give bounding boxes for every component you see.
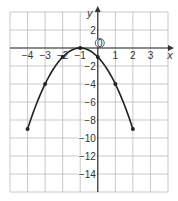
- y-tick-label: 2: [90, 25, 96, 36]
- y-tick-label: −8: [84, 115, 96, 126]
- y-tick-label: −4: [84, 79, 96, 90]
- y-axis-label: y: [86, 7, 94, 19]
- x-tick-label: 2: [130, 50, 136, 61]
- origin-label: 0: [97, 38, 103, 49]
- y-tick-label: −2: [84, 61, 96, 72]
- y-tick-label: −12: [79, 151, 96, 162]
- y-tick-label: −14: [79, 169, 96, 180]
- x-tick-label: −1: [75, 50, 87, 61]
- y-axis-arrow-icon: [95, 6, 101, 12]
- y-tick-label: −10: [79, 133, 96, 144]
- x-tick-label: −3: [39, 50, 51, 61]
- x-tick-label: −4: [22, 50, 34, 61]
- x-tick-label: 3: [148, 50, 154, 61]
- data-point: [96, 55, 100, 59]
- y-tick-label: −6: [84, 97, 96, 108]
- data-point: [26, 127, 30, 131]
- parabola-chart: −4−3−2−11232−2−4−6−8−10−12−140xy: [0, 0, 178, 201]
- data-point: [43, 82, 47, 86]
- x-tick-label: −2: [57, 50, 69, 61]
- data-point: [131, 127, 135, 131]
- x-tick-label: 1: [113, 50, 119, 61]
- x-axis-label: x: [166, 49, 173, 61]
- data-point: [113, 82, 117, 86]
